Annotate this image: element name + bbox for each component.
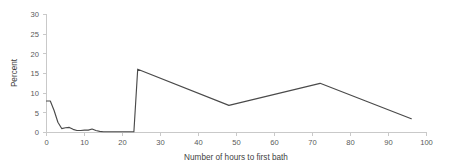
x-tick-label: 50 xyxy=(232,138,240,147)
x-tick-label: 30 xyxy=(156,138,164,147)
chart-figure: 0 5 10 15 20 25 30 0 10 20 30 40 50 60 7… xyxy=(0,0,453,165)
y-tick-label: 25 xyxy=(31,30,39,39)
data-series-line xyxy=(47,69,412,132)
y-tick-label: 20 xyxy=(31,50,39,59)
x-tick-label: 10 xyxy=(80,138,88,147)
y-tick-marks xyxy=(43,15,47,133)
y-tick-label: 5 xyxy=(35,109,39,118)
y-axis-title: Percent xyxy=(10,58,19,87)
y-tick-label: 30 xyxy=(31,10,39,19)
line-chart: 0 5 10 15 20 25 30 0 10 20 30 40 50 60 7… xyxy=(0,0,453,165)
y-tick-label: 10 xyxy=(31,89,39,98)
x-tick-label: 100 xyxy=(420,138,433,147)
x-tick-label: 70 xyxy=(308,138,316,147)
x-tick-label: 80 xyxy=(346,138,354,147)
x-tick-label: 0 xyxy=(44,138,48,147)
x-tick-label: 40 xyxy=(194,138,202,147)
y-tick-label: 15 xyxy=(31,69,39,78)
x-tick-labels: 0 10 20 30 40 50 60 70 80 90 100 xyxy=(44,138,432,147)
x-tick-label: 20 xyxy=(118,138,126,147)
x-tick-label: 60 xyxy=(270,138,278,147)
y-tick-label: 0 xyxy=(35,128,39,137)
y-tick-labels: 0 5 10 15 20 25 30 xyxy=(31,10,39,137)
x-tick-marks xyxy=(47,133,427,137)
x-tick-label: 90 xyxy=(384,138,392,147)
x-axis-title: Number of hours to first bath xyxy=(184,153,288,162)
